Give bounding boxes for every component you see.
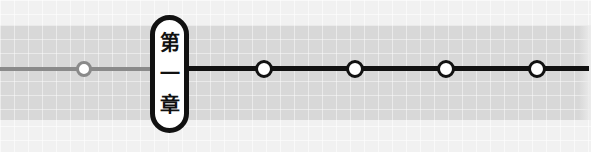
timeline-node-past-1[interactable] <box>76 61 92 77</box>
chapter-char-3: 章 <box>160 94 180 116</box>
chapter-marker[interactable]: 第 一 章 <box>150 15 189 133</box>
timeline-node-5[interactable] <box>528 60 546 78</box>
band-edge-fade <box>579 25 591 120</box>
chapter-char-1: 第 <box>160 32 180 54</box>
chapter-char-2: 一 <box>160 63 180 85</box>
timeline-node-3[interactable] <box>346 60 364 78</box>
timeline-node-4[interactable] <box>437 60 455 78</box>
timeline-node-2[interactable] <box>255 60 273 78</box>
